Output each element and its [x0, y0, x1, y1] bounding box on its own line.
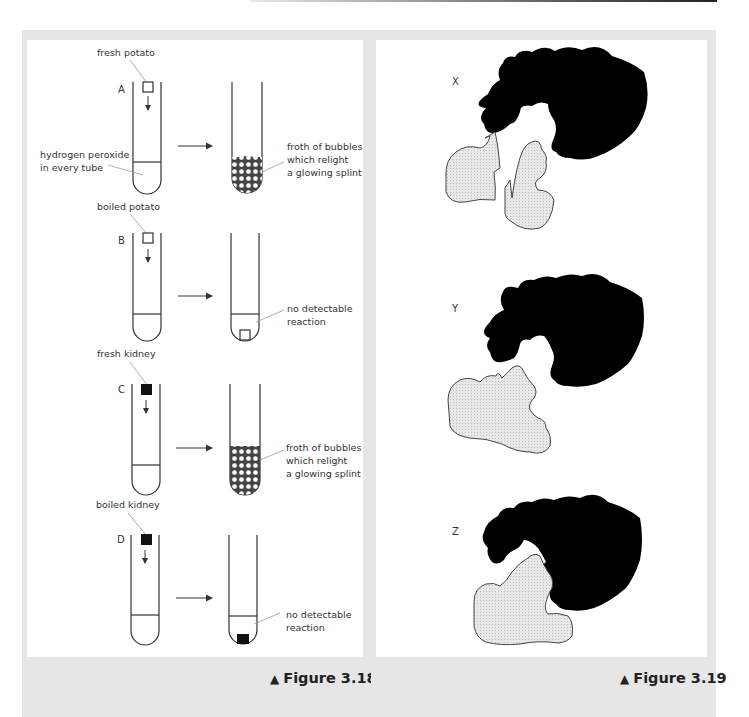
label-y: Y [451, 303, 459, 314]
experiment-b: boiled potato B no detectable reaction [97, 201, 353, 341]
figure-3-18-canvas: A fresh potato hydrogen peroxide in ever… [27, 40, 363, 657]
experiment-d: boiled kidney D no detectable reaction [96, 499, 352, 645]
fresh-kidney-sample [141, 384, 152, 395]
experiment-a: A fresh potato hydrogen peroxide in ever… [40, 47, 362, 197]
label-fresh-potato: fresh potato [97, 47, 155, 58]
result-text-d-1: no detectable [286, 609, 352, 620]
substrate-fragment-x-2 [505, 141, 554, 229]
label-fresh-kidney: fresh kidney [97, 348, 156, 359]
boiled-kidney-sample [141, 534, 152, 545]
top-rule [250, 0, 717, 2]
result-text-c-2: which relight [286, 455, 348, 466]
label-d: D [117, 534, 125, 545]
label-z: Z [452, 526, 459, 537]
result-text-b-1: no detectable [287, 303, 353, 314]
panel-x: X [446, 47, 648, 229]
result-text-a-3: a glowing splint [287, 167, 362, 178]
label-a: A [118, 84, 125, 95]
result-text-b-2: reaction [287, 316, 326, 327]
enzyme-y [484, 274, 644, 387]
label-c: C [118, 384, 125, 395]
result-tube-d [229, 535, 257, 644]
label-boiled-kidney: boiled kidney [96, 499, 160, 510]
figure-3-19-canvas: X Y Z [376, 40, 707, 657]
figure-3-18-caption: ▲Figure 3.18 [270, 670, 377, 686]
label-x: X [452, 76, 459, 87]
result-text-c-3: a glowing splint [286, 468, 361, 479]
triangle-icon: ▲ [270, 672, 279, 686]
fresh-potato-sample [143, 82, 153, 92]
test-tube-diagram: A fresh potato hydrogen peroxide in ever… [27, 40, 363, 657]
boiled-potato-sample [143, 233, 153, 243]
substrate-y [448, 366, 551, 453]
label-hydrogen-peroxide-2: in every tube [40, 162, 103, 173]
enzyme-x [478, 47, 647, 160]
result-text-c-1: froth of bubbles [286, 442, 361, 453]
test-tube-a [133, 82, 161, 194]
label-hydrogen-peroxide-1: hydrogen peroxide [40, 149, 129, 160]
panel-y: Y [448, 274, 644, 453]
triangle-icon: ▲ [620, 672, 629, 686]
result-text-d-2: reaction [286, 622, 325, 633]
figure-3-19-caption: ▲Figure 3.19 [620, 670, 727, 686]
label-boiled-potato: boiled potato [97, 201, 160, 212]
panel-z: Z [452, 495, 642, 645]
result-tube-b [231, 233, 259, 341]
result-text-a-1: froth of bubbles [287, 141, 362, 152]
experiment-c: fresh kidney C froth of bubbles which re… [97, 348, 361, 498]
substrate-fragment-x-1 [446, 132, 500, 202]
froth-of-bubbles [230, 446, 260, 498]
test-tube-b [133, 233, 161, 341]
caption-text: Figure 3.19 [633, 670, 726, 686]
caption-text: Figure 3.18 [283, 670, 376, 686]
label-b: B [118, 235, 125, 246]
enzyme-substrate-diagram: X Y Z [376, 40, 707, 657]
result-text-a-2: which relight [287, 154, 349, 165]
